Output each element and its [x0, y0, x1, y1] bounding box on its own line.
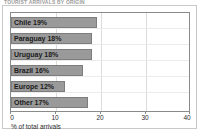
gridline-row-4: [11, 76, 189, 77]
bar-row[interactable]: Other 17%: [11, 97, 189, 108]
gridline-row-3: [11, 60, 189, 61]
bar-label: Other 17%: [14, 98, 49, 107]
gridline-row-5: [11, 92, 189, 93]
axis-tick-label: 20: [96, 114, 103, 122]
chart-title-clipped: TOURIST ARRIVALS BY ORIGIN: [4, 0, 154, 4]
bar-label: Paraguay 18%: [14, 34, 61, 43]
bar-row[interactable]: Paraguay 18%: [11, 33, 189, 44]
axis-tick-label: 30: [141, 114, 148, 122]
gridline-row-1: [11, 28, 189, 29]
gridline-row-2: [11, 44, 189, 45]
axis-tick-label: 40: [183, 114, 190, 122]
chart-card: Chile 19% Paraguay 18% Uruguay 18% Brazi…: [2, 5, 197, 129]
bar-label: Brazil 16%: [14, 66, 49, 75]
chart-figure: TOURIST ARRIVALS BY ORIGIN Chile 19% Par…: [0, 0, 207, 133]
bar-label: Europe 12%: [14, 82, 54, 91]
x-axis-caption: % of total arrivals: [11, 123, 61, 131]
axis-tick-label: 0: [10, 114, 14, 122]
bar-row[interactable]: Europe 12%: [11, 81, 189, 92]
plot-area: Chile 19% Paraguay 18% Uruguay 18% Brazi…: [10, 12, 190, 112]
bar-label: Uruguay 18%: [14, 50, 58, 59]
bar-row[interactable]: Uruguay 18%: [11, 49, 189, 60]
axis-tick-label: 10: [51, 114, 58, 122]
bar-label: Chile 19%: [14, 18, 47, 27]
bar-row[interactable]: Chile 19%: [11, 17, 189, 28]
x-axis: 0 10 20 30 40: [10, 112, 190, 122]
bar-row[interactable]: Brazil 16%: [11, 65, 189, 76]
